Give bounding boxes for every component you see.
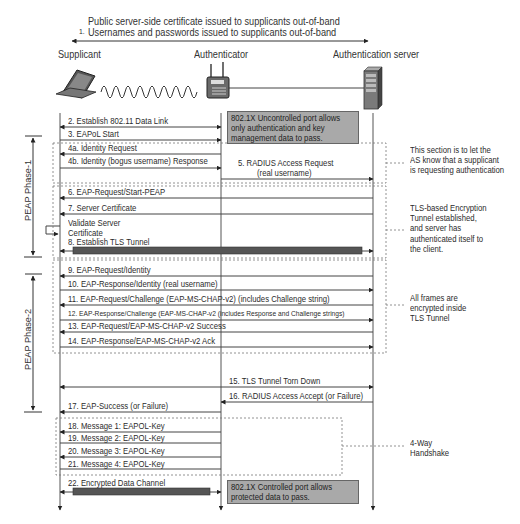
message-19: 19. Message 2: EAPOL-Key <box>68 433 165 443</box>
message-3: 3. EAPoL Start <box>68 129 119 139</box>
message-5b: (real username) <box>257 168 312 178</box>
message-2: 2. Establish 802.11 Data Link <box>68 116 168 126</box>
step1-line2: Usernames and passwords issued to suppli… <box>88 27 336 39</box>
uncontrolled-port-box: 802.1X Uncontrolled port allows only aut… <box>227 111 359 144</box>
message-13: 13. EAP-Request/EAP-MS-CHAP-v2 Success <box>68 321 226 331</box>
validate-cert-line1: Validate Server <box>68 218 120 228</box>
message-9: 9. EAP-Request/Identity <box>68 265 151 275</box>
phase2-label: PEAP Phase-2 <box>23 309 33 370</box>
server-tower-icon <box>364 67 382 109</box>
message-20: 20. Message 3: EAPOL-Key <box>68 446 165 456</box>
message-18: 18. Message 1: EAPOL-Key <box>68 421 165 431</box>
wireless-wave-icon <box>101 86 197 98</box>
note-handshake-section: 4-Way Handshake <box>410 438 449 458</box>
access-point-icon <box>207 62 229 98</box>
message-16: 16. RADIUS Access Accept (or Failure) <box>229 391 363 401</box>
message-11: 11. EAP-Request/Challenge (EAP-MS-CHAP-v… <box>68 294 330 304</box>
controlled-port-box: 802.1X Controlled port allows protected … <box>227 480 359 504</box>
message-15: 15. TLS Tunnel Torn Down <box>229 376 320 386</box>
message-12: 12. EAP-Response/Challenge (EAP-MS-CHAP-… <box>68 309 345 319</box>
step1-number: 1. <box>79 27 85 37</box>
note-encrypted-section: All frames are encrypted inside TLS Tunn… <box>410 293 466 324</box>
phase1-label: PEAP Phase-1 <box>23 160 33 221</box>
message-6: 6. EAP-Request/Start-PEAP <box>68 187 165 197</box>
message-5a: 5. RADIUS Access Request <box>238 158 333 168</box>
actor-auth-server: Authentication server <box>333 49 419 61</box>
message-7: 7. Server Certificate <box>68 203 136 213</box>
actor-supplicant: Supplicant <box>58 49 101 61</box>
actor-authenticator: Authenticator <box>194 49 248 61</box>
tls-tunnel-bar <box>73 247 362 254</box>
message-17: 17. EAP-Success (or Failure) <box>68 401 168 411</box>
data-channel-bar <box>73 488 210 495</box>
note-tls-section: TLS-based Encryption Tunnel established,… <box>410 203 487 254</box>
message-4a: 4a. Identity Request <box>68 143 137 153</box>
note-identity-section: This section is to let the AS know that … <box>410 145 504 176</box>
message-22: 22. Encrypted Data Channel <box>68 478 165 488</box>
message-4b: 4b. Identity (bogus username) Response <box>68 156 208 166</box>
message-14: 14. EAP-Response/EAP-MS-CHAP-v2 Ack <box>68 336 215 346</box>
laptop-icon <box>56 70 96 98</box>
message-21: 21. Message 4: EAPOL-Key <box>68 459 165 469</box>
message-8: 8. Establish TLS Tunnel <box>68 237 150 247</box>
message-10: 10. EAP-Response/Identity (real username… <box>68 279 218 289</box>
